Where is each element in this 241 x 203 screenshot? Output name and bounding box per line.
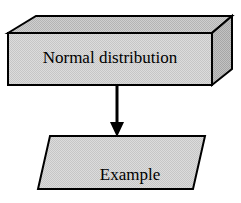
cuboid-front-face — [8, 33, 212, 85]
connector-arrowhead-icon — [110, 122, 124, 137]
diagram-canvas: Normal distribution Example 19.10 — [0, 0, 241, 203]
cuboid-top-face — [8, 16, 232, 33]
diagram-graphics — [0, 0, 241, 203]
parallelogram-shape — [38, 136, 205, 189]
